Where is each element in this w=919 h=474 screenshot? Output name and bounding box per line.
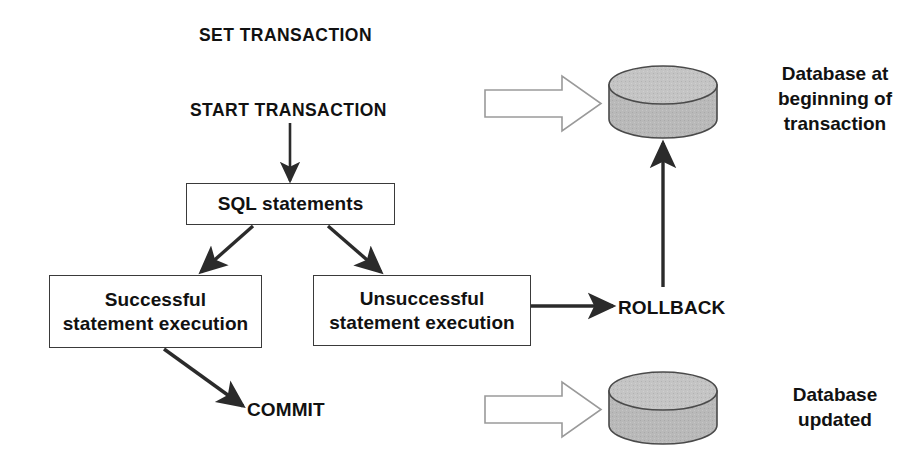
- connector-sql-to-successful: [201, 226, 253, 272]
- database-bottom-caption: Database updated: [760, 382, 910, 432]
- commit-label: COMMIT: [247, 398, 325, 422]
- node-unsuccessful-execution-label-line1: Unsuccessful: [360, 287, 485, 311]
- node-successful-execution-label-line1: Successful: [105, 288, 206, 312]
- rollback-label: ROLLBACK: [618, 296, 725, 320]
- node-unsuccessful-execution[interactable]: Unsuccessful statement execution: [313, 275, 531, 346]
- node-unsuccessful-execution-label-line2: statement execution: [329, 311, 515, 335]
- set-transaction-label: SET TRANSACTION: [199, 24, 372, 46]
- connector-sql-to-unsuccessful: [328, 226, 381, 272]
- node-successful-execution-label-line2: statement execution: [63, 312, 249, 336]
- diagram-canvas: SET TRANSACTION START TRANSACTION SQL st…: [0, 0, 919, 474]
- node-sql-statements[interactable]: SQL statements: [186, 183, 395, 225]
- database-cylinder-top-icon: [609, 66, 717, 138]
- block-arrow-bottom-icon: [485, 382, 601, 437]
- node-successful-execution[interactable]: Successful statement execution: [49, 275, 262, 348]
- node-sql-statements-label: SQL statements: [218, 192, 364, 216]
- database-top-caption: Database at beginning of transaction: [760, 61, 910, 136]
- start-transaction-label: START TRANSACTION: [190, 99, 387, 121]
- block-arrow-top-icon: [485, 76, 601, 131]
- connector-successful-to-commit: [164, 349, 243, 406]
- database-cylinder-bottom-icon: [609, 372, 717, 444]
